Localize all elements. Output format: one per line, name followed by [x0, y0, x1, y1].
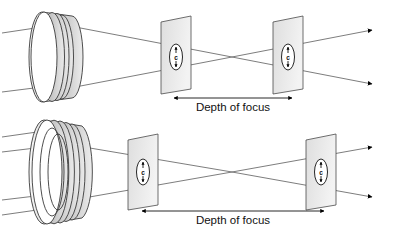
- depth-of-focus-dimension: Depth of focus: [174, 98, 292, 113]
- coc-label: c: [141, 169, 145, 176]
- diagram-canvas: c c Depth of focus: [0, 0, 397, 229]
- focal-plane-far: c: [306, 134, 336, 210]
- refracted-rays-group: [70, 26, 372, 88]
- focal-plane-near: c: [161, 16, 191, 94]
- depth-of-focus-label: Depth of focus: [196, 101, 270, 113]
- focal-plane-far: c: [273, 16, 303, 94]
- coc-label: c: [286, 54, 290, 61]
- small-aperture-lens: [29, 12, 83, 102]
- coc-label: c: [319, 169, 323, 176]
- lens-front-face: [32, 120, 62, 224]
- depth-of-focus-diagram: c c Depth of focus: [0, 0, 397, 229]
- large-aperture-lens: [29, 120, 92, 224]
- row-large-aperture: c c Depth of focus: [2, 120, 372, 226]
- depth-of-focus-dimension: Depth of focus: [142, 211, 324, 226]
- coc-label: c: [174, 54, 178, 61]
- refracted-ray-upper: [70, 26, 372, 84]
- lens-front-face: [31, 12, 57, 102]
- row-small-aperture: c c Depth of focus: [2, 12, 372, 113]
- depth-of-focus-label: Depth of focus: [196, 214, 270, 226]
- refracted-ray-lower: [70, 30, 372, 88]
- focal-plane-near: c: [128, 134, 158, 210]
